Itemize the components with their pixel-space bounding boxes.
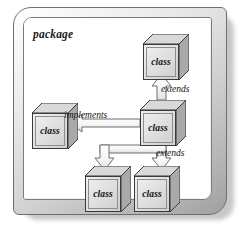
edge-label-extends-top: extends: [161, 84, 190, 94]
class-label: class: [143, 44, 179, 80]
class-node-top-right[interactable]: class: [143, 34, 189, 80]
class-node-bottom-right[interactable]: class: [134, 166, 180, 212]
class-label: class: [134, 176, 170, 212]
class-label: class: [32, 113, 68, 149]
class-label: class: [140, 110, 176, 146]
edge-label-extends-bottom: extends: [156, 148, 185, 158]
edge-label-implements: implements: [64, 110, 107, 120]
uml-package-diagram: package: [0, 0, 249, 233]
class-node-bottom-left[interactable]: class: [85, 166, 131, 212]
class-label: class: [85, 176, 121, 212]
class-node-center[interactable]: class: [140, 100, 186, 146]
